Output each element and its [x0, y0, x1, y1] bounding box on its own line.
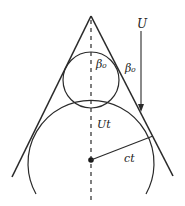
large-circle-arc	[28, 100, 154, 194]
velocity-label: U	[137, 17, 148, 31]
angle-inner-label: β₀	[95, 58, 107, 71]
wave-cone-diagram: U β₀ β₀ Ut ct	[0, 0, 185, 206]
wedge-left-edge	[12, 16, 91, 177]
angle-outer-label: β₀	[124, 62, 136, 75]
displacement-label: Ut	[97, 118, 111, 131]
radius-line	[91, 136, 153, 160]
radius-label: ct	[124, 152, 135, 165]
